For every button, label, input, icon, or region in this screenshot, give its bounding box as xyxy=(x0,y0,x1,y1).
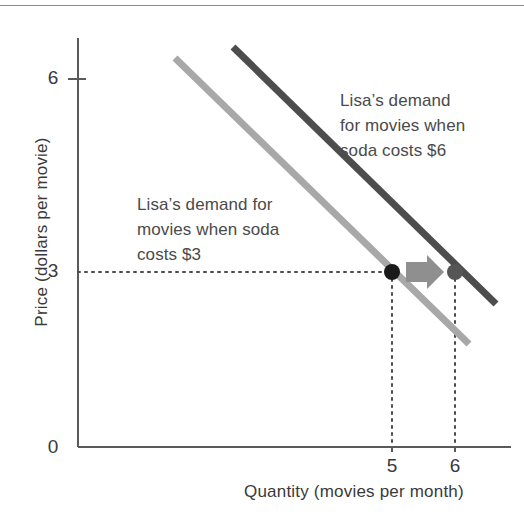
annotation-line: Lisa’s demand for xyxy=(137,192,317,217)
annotation-line: movies when soda xyxy=(137,217,317,242)
point-on-low-demand xyxy=(384,264,400,280)
demand-shift-chart: Price (dollars per movie) Quantity (movi… xyxy=(0,0,524,518)
y-tick-label-6: 6 xyxy=(42,67,64,89)
y-axis-title: Price (dollars per movie) xyxy=(32,112,52,352)
y-tick-label-3: 3 xyxy=(42,260,64,282)
x-axis-title: Quantity (movies per month) xyxy=(244,482,464,502)
annotation-line: for movies when xyxy=(340,113,510,138)
annotation-demand-soda-3: Lisa’s demand for movies when soda costs… xyxy=(137,192,317,267)
annotation-line: costs $3 xyxy=(137,242,317,267)
annotation-line: Lisa’s demand xyxy=(340,88,510,113)
annotation-line: soda costs $6 xyxy=(340,138,510,163)
x-tick-label-6: 6 xyxy=(444,455,466,477)
origin-label: 0 xyxy=(42,436,64,458)
x-tick-label-5: 5 xyxy=(381,455,403,477)
annotation-demand-soda-6: Lisa’s demand for movies when soda costs… xyxy=(340,88,510,163)
point-on-high-demand xyxy=(447,264,463,280)
